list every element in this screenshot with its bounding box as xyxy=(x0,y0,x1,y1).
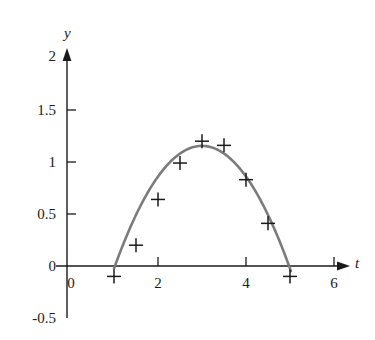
y-tick-label-1: 1 xyxy=(22,155,56,170)
data-point-markers xyxy=(107,134,297,283)
x-tick-label-6: 6 xyxy=(325,276,343,291)
x-tick-label-0: 0 xyxy=(62,276,80,291)
y-axis-ticks xyxy=(67,110,76,214)
y-tick-label-neg-0-5: -0.5 xyxy=(6,311,56,326)
fitted-curve xyxy=(114,146,291,271)
x-axis-label: t xyxy=(355,256,359,271)
x-tick-label-2: 2 xyxy=(149,276,167,291)
x-axis-ticks xyxy=(158,257,334,266)
x-axis xyxy=(56,262,350,271)
y-tick-label-0-5: 0.5 xyxy=(16,207,56,222)
y-axis-label: y xyxy=(64,26,71,41)
y-tick-label-2: 2 xyxy=(22,49,56,64)
chart-figure: 2 1.5 1 0.5 0 -0.5 0 2 4 6 y t xyxy=(0,0,375,340)
x-tick-label-4: 4 xyxy=(237,276,255,291)
chart-plot-area xyxy=(0,0,375,340)
y-tick-label-1-5: 1.5 xyxy=(16,103,56,118)
y-tick-label-0: 0 xyxy=(22,259,56,274)
